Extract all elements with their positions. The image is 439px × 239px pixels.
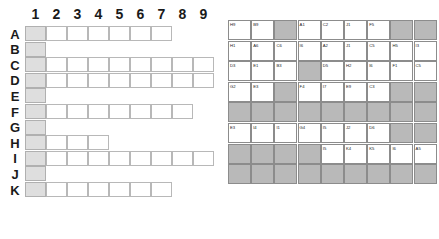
right-table-cell-r1c0[interactable]: H1 xyxy=(228,41,251,61)
left-grid-cell-A7[interactable] xyxy=(151,26,172,41)
left-grid-cell-I7[interactable] xyxy=(151,151,172,166)
left-grid-cell-K5[interactable] xyxy=(109,182,130,197)
left-grid-cell-I6[interactable] xyxy=(130,151,151,166)
right-table-cell-filled-r4c4[interactable] xyxy=(321,102,344,122)
right-table-cell-filled-r2c3[interactable] xyxy=(298,61,321,81)
right-table-cell-filled-r7c5[interactable] xyxy=(344,164,367,184)
right-table-cell-filled-r5c8[interactable] xyxy=(414,123,437,143)
right-table-cell-r5c4[interactable]: I5 xyxy=(321,123,344,143)
right-table-cell-filled-r4c7[interactable] xyxy=(390,102,413,122)
right-table-cell-r2c4[interactable]: D5 xyxy=(321,61,344,81)
left-grid-cell-D2[interactable] xyxy=(46,73,67,88)
left-grid-cell-F2[interactable] xyxy=(46,104,67,119)
right-table-cell-r0c1[interactable]: B9 xyxy=(251,20,274,40)
right-table-cell-r2c8[interactable]: C5 xyxy=(414,61,437,81)
left-grid-cell-K2[interactable] xyxy=(46,182,67,197)
left-grid-cell-A2[interactable] xyxy=(46,26,67,41)
left-grid-cell-H3[interactable] xyxy=(67,135,88,150)
left-grid-cell-D4[interactable] xyxy=(88,73,109,88)
left-grid-cell-I9[interactable] xyxy=(193,151,214,166)
left-grid-cell-C7[interactable] xyxy=(151,57,172,72)
right-table-cell-r2c6[interactable]: I6 xyxy=(367,61,390,81)
right-table-cell-r1c2[interactable]: C6 xyxy=(274,41,297,61)
right-table-cell-r6c8[interactable]: A5 xyxy=(414,144,437,164)
left-grid-cell-A3[interactable] xyxy=(67,26,88,41)
right-table-cell-r1c8[interactable]: I3 xyxy=(414,41,437,61)
right-table-cell-r5c5[interactable]: J2 xyxy=(344,123,367,143)
left-grid-cell-H1[interactable] xyxy=(25,135,46,150)
left-grid-cell-F6[interactable] xyxy=(130,104,151,119)
right-table-cell-r5c2[interactable]: I1 xyxy=(274,123,297,143)
right-table-cell-filled-r4c0[interactable] xyxy=(228,102,251,122)
left-grid-cell-C1[interactable] xyxy=(25,57,46,72)
right-table-cell-filled-r7c6[interactable] xyxy=(367,164,390,184)
right-table-cell-r3c0[interactable]: G2 xyxy=(228,82,251,102)
right-table-cell-r1c4[interactable]: A2 xyxy=(321,41,344,61)
right-table-cell-filled-r4c3[interactable] xyxy=(298,102,321,122)
right-table-cell-r2c7[interactable]: F1 xyxy=(390,61,413,81)
left-grid-cell-H2[interactable] xyxy=(46,135,67,150)
right-table-cell-filled-r0c2[interactable] xyxy=(274,20,297,40)
left-grid-cell-D9[interactable] xyxy=(193,73,214,88)
right-table-cell-filled-r4c5[interactable] xyxy=(344,102,367,122)
right-table-cell-r6c6[interactable]: K5 xyxy=(367,144,390,164)
left-grid-cell-D3[interactable] xyxy=(67,73,88,88)
left-grid-cell-I3[interactable] xyxy=(67,151,88,166)
right-table-cell-filled-r0c7[interactable] xyxy=(390,20,413,40)
right-table-cell-r0c3[interactable]: A1 xyxy=(298,20,321,40)
left-grid-cell-J1[interactable] xyxy=(25,166,46,181)
right-table-cell-r2c5[interactable]: H2 xyxy=(344,61,367,81)
left-grid-cell-C6[interactable] xyxy=(130,57,151,72)
right-table-cell-filled-r7c1[interactable] xyxy=(251,164,274,184)
right-table-cell-r6c4[interactable]: I5 xyxy=(321,144,344,164)
right-table-cell-r1c5[interactable]: J1 xyxy=(344,41,367,61)
right-table-cell-filled-r0c8[interactable] xyxy=(414,20,437,40)
right-table-cell-r5c6[interactable]: D6 xyxy=(367,123,390,143)
left-grid-cell-I4[interactable] xyxy=(88,151,109,166)
right-table-cell-r2c1[interactable]: E1 xyxy=(251,61,274,81)
right-table-cell-r5c1[interactable]: I4 xyxy=(251,123,274,143)
right-table-cell-filled-r6c0[interactable] xyxy=(228,144,251,164)
right-table-cell-filled-r7c3[interactable] xyxy=(298,164,321,184)
left-grid-cell-A1[interactable] xyxy=(25,26,46,41)
left-grid-cell-C9[interactable] xyxy=(193,57,214,72)
right-table-cell-r5c0[interactable]: E3 xyxy=(228,123,251,143)
right-table-cell-filled-r6c1[interactable] xyxy=(251,144,274,164)
left-grid-cell-A6[interactable] xyxy=(130,26,151,41)
right-table-cell-filled-r6c3[interactable] xyxy=(298,144,321,164)
left-grid-cell-C2[interactable] xyxy=(46,57,67,72)
right-table-cell-filled-r7c4[interactable] xyxy=(321,164,344,184)
right-table-cell-filled-r5c7[interactable] xyxy=(390,123,413,143)
right-table-cell-filled-r4c1[interactable] xyxy=(251,102,274,122)
right-table-cell-filled-r7c0[interactable] xyxy=(228,164,251,184)
left-grid-cell-C4[interactable] xyxy=(88,57,109,72)
left-grid-cell-C5[interactable] xyxy=(109,57,130,72)
left-grid-cell-F1[interactable] xyxy=(25,104,46,119)
left-grid-cell-K7[interactable] xyxy=(151,182,172,197)
left-grid-cell-G1[interactable] xyxy=(25,120,46,135)
left-grid-cell-K6[interactable] xyxy=(130,182,151,197)
left-grid-cell-A5[interactable] xyxy=(109,26,130,41)
right-table-cell-r0c6[interactable]: F5 xyxy=(367,20,390,40)
right-table-cell-r1c3[interactable]: I6 xyxy=(298,41,321,61)
right-table-cell-filled-r3c7[interactable] xyxy=(390,82,413,102)
right-table-cell-filled-r3c2[interactable] xyxy=(274,82,297,102)
right-table-cell-r3c4[interactable]: I7 xyxy=(321,82,344,102)
left-grid-cell-E1[interactable] xyxy=(25,88,46,103)
left-grid-cell-D5[interactable] xyxy=(109,73,130,88)
left-grid-cell-A4[interactable] xyxy=(88,26,109,41)
left-grid-cell-B1[interactable] xyxy=(25,42,46,57)
left-grid-cell-D7[interactable] xyxy=(151,73,172,88)
left-grid-cell-I8[interactable] xyxy=(172,151,193,166)
right-table-cell-filled-r7c8[interactable] xyxy=(414,164,437,184)
left-grid-cell-D8[interactable] xyxy=(172,73,193,88)
left-grid-cell-C8[interactable] xyxy=(172,57,193,72)
left-grid-cell-D1[interactable] xyxy=(25,73,46,88)
right-table-cell-r2c0[interactable]: D3 xyxy=(228,61,251,81)
right-table-cell-filled-r4c2[interactable] xyxy=(274,102,297,122)
right-table-cell-r0c0[interactable]: H9 xyxy=(228,20,251,40)
right-table-cell-filled-r3c8[interactable] xyxy=(414,82,437,102)
right-table-cell-filled-r4c8[interactable] xyxy=(414,102,437,122)
right-table-cell-r6c7[interactable]: I6 xyxy=(390,144,413,164)
right-table-cell-r2c2[interactable]: B3 xyxy=(274,61,297,81)
